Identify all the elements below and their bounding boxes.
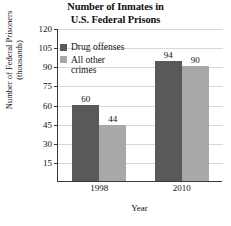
y-axis-title: Number of Federal Prisoners (thousands) bbox=[4, 0, 30, 135]
bar-value-label: 44 bbox=[108, 115, 117, 124]
legend-swatch-drug-offenses bbox=[60, 44, 67, 51]
y-axis-tick bbox=[54, 163, 58, 164]
legend-swatch-all-other-crimes bbox=[60, 56, 67, 63]
bar-chart: Number of Inmates in U.S. Federal Prison… bbox=[0, 0, 231, 226]
y-axis-tick bbox=[54, 106, 58, 107]
x-axis-tick-label: 1998 bbox=[90, 184, 108, 193]
legend-label-all-other-crimes: All other crimes bbox=[71, 55, 105, 76]
y-axis-tick bbox=[54, 144, 58, 145]
bar bbox=[182, 66, 209, 181]
y-axis-tick bbox=[54, 67, 58, 68]
y-axis-title-line-1: Number of Federal Prisoners bbox=[4, 0, 14, 135]
y-axis-tick-label: 30 bbox=[28, 139, 52, 148]
y-axis-tick-label: 90 bbox=[28, 63, 52, 72]
y-axis-tick bbox=[54, 29, 58, 30]
gridline bbox=[58, 29, 223, 30]
y-axis-tick-label: 15 bbox=[28, 158, 52, 167]
y-axis-tick-label: 75 bbox=[28, 82, 52, 91]
y-axis-tick-label: 60 bbox=[28, 101, 52, 110]
legend: Drug offenses All other crimes bbox=[60, 42, 124, 78]
legend-item-drug-offenses: Drug offenses bbox=[60, 42, 124, 53]
y-axis-tick-label: 105 bbox=[28, 44, 52, 53]
bar-value-label: 90 bbox=[191, 56, 200, 65]
x-axis-title: Year bbox=[57, 203, 222, 213]
chart-title-line-1: Number of Inmates in bbox=[0, 1, 231, 14]
y-axis-tick bbox=[54, 48, 58, 49]
bar bbox=[99, 125, 126, 181]
y-axis-tick-label: 45 bbox=[28, 120, 52, 129]
bar bbox=[72, 105, 99, 182]
y-axis-title-line-2: (thousands) bbox=[14, 0, 24, 135]
y-axis-tick-label: 120 bbox=[28, 25, 52, 34]
x-axis-tick-label: 2010 bbox=[173, 184, 191, 193]
legend-label-drug-offenses: Drug offenses bbox=[71, 42, 124, 53]
y-axis-tick bbox=[54, 125, 58, 126]
y-axis-tick bbox=[54, 86, 58, 87]
legend-item-all-other-crimes: All other crimes bbox=[60, 55, 124, 76]
bar-value-label: 60 bbox=[81, 95, 90, 104]
chart-title: Number of Inmates in U.S. Federal Prison… bbox=[0, 1, 231, 26]
bar bbox=[155, 61, 182, 181]
bar-value-label: 94 bbox=[164, 51, 173, 60]
